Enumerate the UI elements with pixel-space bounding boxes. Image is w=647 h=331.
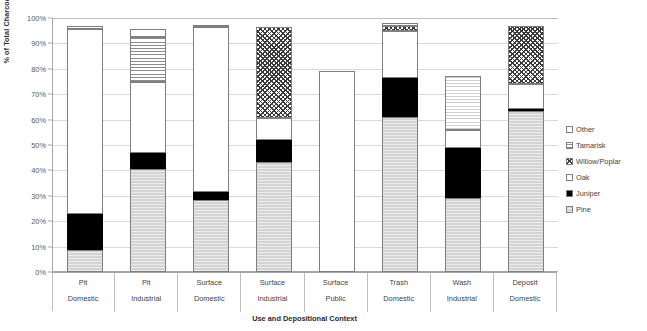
x-axis-category-6: TrashDomestic	[368, 273, 431, 312]
bar-segment-pine	[508, 111, 544, 272]
x-axis-category-label-secondary: Domestic	[368, 294, 430, 303]
y-axis-tick-label: 70%	[14, 90, 46, 99]
bar-segment-oak	[382, 31, 418, 78]
legend-swatch-icon	[566, 174, 573, 181]
bar-segment-tamarisk	[130, 37, 166, 81]
bar-segment-oak	[130, 82, 166, 153]
legend-item-other[interactable]: Other	[566, 122, 644, 137]
legend-swatch-icon	[566, 126, 573, 133]
bar-segment-juniper	[382, 78, 418, 117]
bar-deposit-domestic	[508, 18, 544, 272]
legend-item-juniper[interactable]: Juniper	[566, 186, 644, 201]
x-axis-category-label-secondary: Domestic	[178, 294, 240, 303]
stacked-bar-chart: % of Total Charcoal Weight 0%10%20%30%40…	[0, 0, 647, 331]
legend-item-willow-poplar[interactable]: Willow/Poplar	[566, 154, 644, 169]
bar-surface-public	[319, 18, 355, 272]
x-axis-category-label-primary: Surface	[305, 278, 367, 287]
bar-segment-tamarisk	[445, 76, 481, 129]
legend-item-pine[interactable]: Pine	[566, 202, 644, 217]
bar-segment-pine	[67, 250, 103, 272]
bar-segment-pine	[445, 198, 481, 272]
bar-segment-pine	[256, 162, 292, 272]
legend-label: Tamarisk	[576, 141, 606, 150]
x-axis-category-label-primary: Pit	[115, 278, 177, 287]
x-axis-category-label-primary: Deposit	[494, 278, 556, 287]
bar-segment-juniper	[445, 148, 481, 199]
y-axis-tick-label: 30%	[14, 191, 46, 200]
y-axis-tick-label: 20%	[14, 217, 46, 226]
legend: OtherTamariskWillow/PoplarOakJuniperPine	[566, 122, 644, 218]
bar-segment-oak	[508, 84, 544, 109]
bar-segment-oak	[445, 130, 481, 148]
legend-label: Pine	[576, 205, 591, 214]
x-axis-title: Use and Depositional Context	[52, 314, 557, 323]
x-axis-category-label-primary: Pit	[52, 278, 114, 287]
x-axis-category-label-primary: Surface	[178, 278, 240, 287]
x-axis-category-label-secondary: Domestic	[494, 294, 556, 303]
bar-segment-oak	[256, 118, 292, 140]
x-axis-category-label-primary: Surface	[241, 278, 303, 287]
legend-item-oak[interactable]: Oak	[566, 170, 644, 185]
x-axis-category-4: SurfaceIndustrial	[241, 273, 304, 312]
bar-segment-willow-poplar	[508, 26, 544, 84]
bar-segment-pine	[130, 169, 166, 272]
x-axis-category-label-primary: Wash	[431, 278, 493, 287]
y-axis-tick-label: 0%	[14, 268, 46, 277]
bar-pit-industrial	[130, 18, 166, 272]
bar-pit-domestic	[67, 18, 103, 272]
y-axis-tick-label: 50%	[14, 141, 46, 150]
y-axis-tick-label: 90%	[14, 39, 46, 48]
legend-swatch-icon	[566, 190, 573, 197]
bar-segment-other	[130, 29, 166, 37]
x-axis-category-7: WashIndustrial	[431, 273, 494, 312]
x-axis-category-2: PitIndustrial	[115, 273, 178, 312]
legend-label: Willow/Poplar	[576, 157, 621, 166]
legend-item-tamarisk[interactable]: Tamarisk	[566, 138, 644, 153]
bar-segment-juniper	[193, 192, 229, 200]
bar-wash-industrial	[445, 18, 481, 272]
y-axis-tick-label: 10%	[14, 242, 46, 251]
bar-segment-other	[382, 23, 418, 26]
bar-segment-juniper	[67, 214, 103, 250]
bar-surface-domestic	[193, 18, 229, 272]
legend-swatch-icon	[566, 206, 573, 213]
y-axis-tick-label: 80%	[14, 64, 46, 73]
bar-segment-willow-poplar	[382, 26, 418, 31]
plot-area	[52, 18, 557, 272]
bar-segment-oak	[67, 29, 103, 214]
bar-segment-other	[67, 26, 103, 30]
bar-segment-oak	[193, 27, 229, 192]
bar-segment-pine	[382, 117, 418, 272]
y-axis-tick-label: 100%	[14, 14, 46, 23]
x-axis-category-label-primary: Trash	[368, 278, 430, 287]
y-axis-title: % of Total Charcoal Weight	[2, 0, 11, 96]
bar-segment-juniper	[130, 153, 166, 170]
legend-swatch-icon	[566, 142, 573, 149]
x-axis-label-group: PitDomesticPitIndustrialSurfaceDomesticS…	[52, 272, 557, 312]
bar-segment-other	[193, 25, 229, 27]
bar-surface-industrial	[256, 18, 292, 272]
legend-label: Oak	[576, 173, 590, 182]
legend-label: Other	[576, 125, 594, 134]
bar-segment-pine	[193, 200, 229, 272]
x-axis-category-label-secondary: Industrial	[431, 294, 493, 303]
bar-trash-domestic	[382, 18, 418, 272]
x-axis-category-label-secondary: Industrial	[115, 294, 177, 303]
bar-segment-juniper	[256, 140, 292, 162]
x-axis-category-label-secondary: Public	[305, 294, 367, 303]
bar-segment-oak	[319, 71, 355, 272]
x-axis-category-8: DepositDomestic	[494, 273, 557, 312]
x-axis-category-5: SurfacePublic	[305, 273, 368, 312]
bar-segment-juniper	[508, 109, 544, 111]
x-axis-category-3: SurfaceDomestic	[178, 273, 241, 312]
y-axis-tick-label: 60%	[14, 115, 46, 124]
legend-swatch-icon	[566, 158, 573, 165]
x-axis-category-1: PitDomestic	[52, 273, 115, 312]
legend-label: Juniper	[576, 189, 600, 198]
bar-segment-willow-poplar	[256, 27, 292, 118]
x-axis-category-label-secondary: Industrial	[241, 294, 303, 303]
x-axis-category-label-secondary: Domestic	[52, 294, 114, 303]
y-axis-tick-label: 40%	[14, 166, 46, 175]
